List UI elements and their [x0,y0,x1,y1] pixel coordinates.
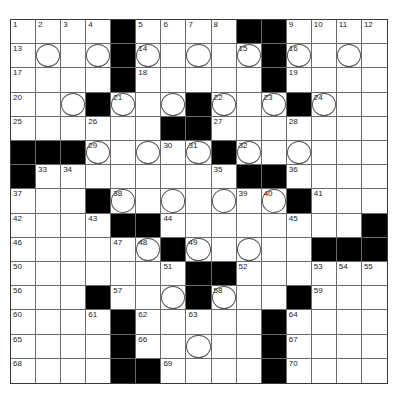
grid-cell[interactable] [186,165,211,189]
grid-cell[interactable] [61,359,86,383]
grid-cell[interactable] [36,238,61,262]
grid-cell[interactable]: 37 [11,189,36,213]
grid-cell[interactable] [61,68,86,92]
grid-cell[interactable] [86,262,111,286]
grid-cell[interactable]: 36 [287,165,312,189]
grid-cell[interactable] [61,335,86,359]
grid-cell[interactable] [136,117,161,141]
grid-cell[interactable]: 4 [86,20,111,44]
grid-cell[interactable] [36,44,61,68]
grid-cell[interactable] [136,165,161,189]
grid-cell[interactable]: 29 [86,141,111,165]
grid-cell[interactable]: 55 [362,262,387,286]
grid-cell[interactable] [337,165,362,189]
grid-cell[interactable] [237,238,262,262]
grid-cell[interactable] [337,44,362,68]
grid-cell[interactable] [237,359,262,383]
grid-cell[interactable]: 67 [287,335,312,359]
grid-cell[interactable]: 44 [161,214,186,238]
grid-cell[interactable] [161,44,186,68]
grid-cell[interactable] [362,93,387,117]
grid-cell[interactable]: 53 [312,262,337,286]
grid-cell[interactable] [337,117,362,141]
grid-cell[interactable] [61,238,86,262]
grid-cell[interactable] [212,68,237,92]
grid-cell[interactable]: 61 [86,310,111,334]
grid-cell[interactable] [237,310,262,334]
grid-cell[interactable] [111,262,136,286]
grid-cell[interactable] [36,359,61,383]
grid-cell[interactable] [262,286,287,310]
grid-cell[interactable] [36,93,61,117]
grid-cell[interactable] [161,310,186,334]
grid-cell[interactable] [312,214,337,238]
grid-cell[interactable]: 26 [86,117,111,141]
grid-cell[interactable] [337,335,362,359]
grid-cell[interactable] [312,310,337,334]
grid-cell[interactable]: 22 [212,93,237,117]
grid-cell[interactable] [61,286,86,310]
grid-cell[interactable] [186,335,211,359]
grid-cell[interactable] [186,189,211,213]
grid-cell[interactable] [36,117,61,141]
grid-cell[interactable]: 11 [337,20,362,44]
grid-cell[interactable]: 17 [11,68,36,92]
grid-cell[interactable] [237,117,262,141]
grid-cell[interactable] [362,335,387,359]
grid-cell[interactable] [262,117,287,141]
grid-cell[interactable] [212,214,237,238]
grid-cell[interactable] [61,189,86,213]
grid-cell[interactable] [337,359,362,383]
grid-cell[interactable]: 54 [337,262,362,286]
grid-cell[interactable] [186,68,211,92]
grid-cell[interactable]: 21 [111,93,136,117]
grid-cell[interactable] [61,117,86,141]
grid-cell[interactable] [61,93,86,117]
grid-cell[interactable] [212,359,237,383]
grid-cell[interactable] [312,335,337,359]
grid-cell[interactable]: 6 [161,20,186,44]
grid-cell[interactable] [362,286,387,310]
grid-cell[interactable] [287,238,312,262]
grid-cell[interactable]: 43 [86,214,111,238]
grid-cell[interactable] [312,359,337,383]
grid-cell[interactable] [161,335,186,359]
grid-cell[interactable] [287,141,312,165]
grid-cell[interactable] [337,189,362,213]
grid-cell[interactable] [362,141,387,165]
grid-cell[interactable] [262,262,287,286]
grid-cell[interactable]: 5 [136,20,161,44]
grid-cell[interactable] [136,93,161,117]
grid-cell[interactable] [36,189,61,213]
grid-cell[interactable] [86,44,111,68]
grid-cell[interactable] [237,93,262,117]
grid-cell[interactable] [61,44,86,68]
grid-cell[interactable] [36,335,61,359]
grid-cell[interactable] [36,262,61,286]
grid-cell[interactable] [362,310,387,334]
grid-cell[interactable]: 56 [11,286,36,310]
grid-cell[interactable] [161,286,186,310]
grid-cell[interactable] [337,286,362,310]
grid-cell[interactable] [61,262,86,286]
grid-cell[interactable] [337,93,362,117]
grid-cell[interactable] [237,286,262,310]
grid-cell[interactable] [337,68,362,92]
grid-cell[interactable]: 63 [186,310,211,334]
grid-cell[interactable] [61,310,86,334]
grid-cell[interactable] [362,359,387,383]
grid-cell[interactable] [312,44,337,68]
grid-cell[interactable]: 8 [212,20,237,44]
grid-cell[interactable] [312,68,337,92]
grid-cell[interactable] [212,238,237,262]
grid-cell[interactable]: 1 [11,20,36,44]
grid-cell[interactable]: 52 [237,262,262,286]
grid-cell[interactable]: 28 [287,117,312,141]
grid-cell[interactable] [111,141,136,165]
grid-cell[interactable]: 24 [312,93,337,117]
grid-cell[interactable]: 68 [11,359,36,383]
grid-cell[interactable]: 47 [111,238,136,262]
grid-cell[interactable] [337,214,362,238]
grid-cell[interactable] [312,141,337,165]
grid-cell[interactable] [111,117,136,141]
